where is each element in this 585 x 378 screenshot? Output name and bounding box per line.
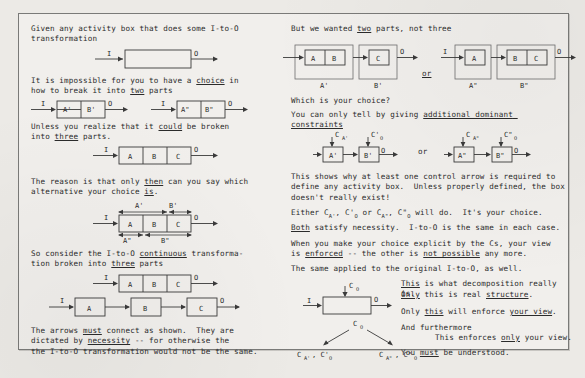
left-paragraph-4: The reason is that only then can you say… [31,177,283,198]
svg-text:C: C [353,320,357,328]
right-column: But we wanted two parts, not three A B A… [289,14,568,349]
scanned-page: Given any activity box that does some I-… [0,0,585,378]
lp3-c: parts. [78,132,111,141]
svg-text:I: I [107,50,111,58]
diagram-empty-activity-box: I O [77,47,237,73]
rp5-text: Either C [291,208,329,217]
rp7-c: any more. [480,249,527,258]
svg-text:O: O [360,324,363,330]
cl2-e: . [529,290,534,299]
or-label-mid: or [418,147,427,157]
svg-text:C: C [349,282,353,290]
diagram-three-parts-with-spans: A' B' I O A [77,200,257,244]
left-paragraph-6: The arrows must connect as shown. They a… [31,326,283,357]
cl6-c: be understood. [439,348,510,357]
svg-text:C: C [199,305,203,313]
svg-text:O: O [400,48,404,56]
right-paragraph-7: When you make your choice explicit by th… [291,239,571,260]
diagram-grouping-prime: A B A' C B' O [283,41,423,93]
svg-text:O: O [381,147,385,155]
left-paragraph-5: So consider the I-to-O continuous transf… [31,249,283,270]
svg-text:B: B [332,55,336,63]
svg-text:A": A" [473,135,479,141]
svg-text:O: O [194,274,198,282]
svg-text:A': A' [135,202,143,210]
rp7-not: not possible [423,249,480,258]
svg-text:A": A" [458,152,466,160]
rp7-b: -- the other is [343,249,423,258]
rp1-two: two [357,24,371,33]
svg-text:C: C [176,281,180,289]
svg-text:B: B [152,221,156,229]
svg-text:B": B" [161,237,169,245]
svg-text:C': C' [371,131,379,139]
svg-text:O: O [228,100,232,108]
svg-text:O: O [329,355,332,361]
diagram-constraints-prime: C A' A' C' O B' [313,126,433,170]
svg-text:C: C [176,153,180,161]
cl5-a: This enforces [435,333,501,342]
lp3-a: Unless you realize that it [31,122,159,131]
svg-text:, C': , C' [312,351,329,359]
cl3-view: your view [510,307,553,316]
page-frame: Given any activity box that does some I-… [18,13,569,350]
conclusion-line-2: Only this is real structure. [401,290,571,300]
right-paragraph-4: This shows why at least one control arro… [291,172,571,203]
svg-text:B: B [152,281,156,289]
svg-text:I: I [104,274,108,282]
svg-text:A': A' [63,106,71,114]
svg-text:A": A" [123,237,131,245]
left-paragraph-3: Unless you realize that it could be brok… [31,122,283,143]
svg-text:B': B' [364,152,372,160]
rp6-rest: satisfy necessity. I-to-O is the same in… [310,223,560,232]
svg-text:A': A' [342,135,348,141]
right-paragraph-5: Either CA', C'O or CA", C"O will do. It'… [291,208,571,221]
svg-text:O: O [514,135,517,141]
lp4-a: The reason is that only [31,177,144,186]
cl3-a: Only [401,307,425,316]
svg-text:B': B' [169,202,177,210]
cl3-e: . [552,307,557,316]
lp5-cont: continuous [140,249,187,258]
svg-text:B": B" [205,106,213,114]
conclusion-line-4: And furthermore [401,323,571,333]
svg-text:C: C [176,221,180,229]
svg-text:B': B' [87,106,95,114]
right-paragraph-2: Which is your choice? [291,96,567,106]
cl1-this: This [401,279,420,288]
rp7-enf: enforced [305,249,343,258]
lp6-nec: necessity [88,336,131,345]
rp6-both: Both [291,223,310,232]
lp3-could: could [159,122,183,131]
svg-text:O: O [380,135,383,141]
svg-text:A': A' [329,152,337,160]
svg-text:A': A' [320,82,328,90]
svg-text:I: I [41,100,45,108]
svg-text:I: I [443,48,447,56]
svg-text:O: O [356,286,359,292]
diagram-two-parts-prime: I O A' B' [27,98,147,124]
cl6-a: You [401,348,420,357]
diagram-two-parts-doubleprime: I O A" B" [147,98,267,124]
svg-text:O: O [194,50,198,58]
right-paragraph-6: Both satisfy necessity. I-to-O is the sa… [291,223,571,233]
svg-text:I: I [307,297,311,305]
cl3-c: will enforce [444,307,510,316]
left-paragraph-2: It is impossible for you to have a choic… [31,76,283,97]
svg-text:I: I [104,146,108,154]
svg-text:I: I [60,297,64,305]
cl6-must: must [420,348,439,357]
right-paragraph-8: The same applied to the original I-to-O,… [291,264,571,274]
svg-text:B: B [152,153,156,161]
svg-text:A": A" [181,106,189,114]
svg-text:A": A" [469,82,477,90]
svg-text:C: C [297,351,301,359]
cl2-struct: structure [486,290,529,299]
cl3-this: this [425,307,444,316]
rp1-b: parts, not three [371,24,451,33]
diagram-three-parts-separated: I O A B C [37,295,252,321]
lp2-c: parts [144,86,172,95]
svg-text:A': A' [304,355,310,361]
lp5-a: So consider the I-to-O [31,249,140,258]
lp2-two: two [130,86,144,95]
